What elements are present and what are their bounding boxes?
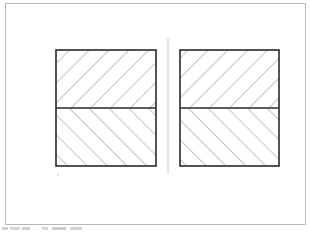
right-block-bottom-section (180, 108, 279, 166)
caption-text-truncated (2, 226, 98, 231)
right-block (180, 50, 279, 166)
left-block (56, 50, 156, 166)
left-block-bottom-section (56, 108, 156, 166)
reference-dot (57, 174, 58, 175)
right-block-top-section (180, 50, 279, 108)
hatched-blocks-diagram (0, 0, 310, 232)
left-block-top-section (56, 50, 156, 108)
